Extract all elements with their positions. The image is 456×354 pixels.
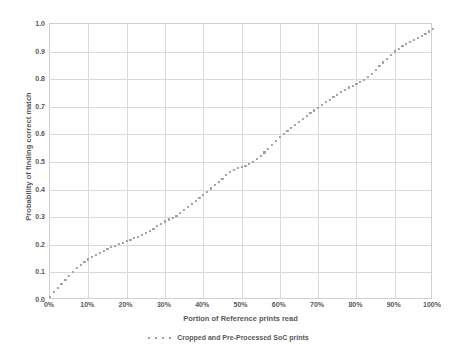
- data-point: [49, 296, 51, 298]
- x-axis-title: Portion of Reference prints read: [49, 314, 432, 323]
- y-tick-label: 0.1: [19, 268, 45, 275]
- gridline-vertical: [318, 24, 319, 298]
- data-point: [260, 155, 262, 157]
- plot-area: [49, 23, 432, 299]
- data-point: [432, 28, 434, 30]
- gridline-horizontal: [50, 52, 431, 53]
- x-tick-label: 20%: [106, 301, 146, 308]
- gridline-horizontal: [50, 162, 431, 163]
- y-tick-label: 0.5: [19, 158, 45, 165]
- data-point: [229, 171, 231, 173]
- data-point: [187, 206, 189, 208]
- x-tick-label: 30%: [144, 301, 184, 308]
- data-point: [382, 61, 384, 63]
- gridline-horizontal: [50, 190, 431, 191]
- data-point: [103, 250, 105, 252]
- data-point: [76, 267, 78, 269]
- gridline-vertical: [356, 24, 357, 298]
- data-point: [420, 35, 422, 37]
- data-point: [256, 158, 258, 160]
- y-tick-label: 0.7: [19, 102, 45, 109]
- gridline-vertical: [242, 24, 243, 298]
- x-tick-label: 100%: [412, 301, 452, 308]
- data-point: [122, 241, 124, 243]
- data-point: [290, 127, 292, 129]
- y-tick-label: 0.2: [19, 240, 45, 247]
- x-tick-label: 0%: [29, 301, 69, 308]
- data-point: [374, 69, 376, 71]
- data-point: [298, 121, 300, 123]
- data-point: [413, 39, 415, 41]
- x-tick-label: 10%: [67, 301, 107, 308]
- data-point: [80, 264, 82, 266]
- data-point: [91, 256, 93, 258]
- data-point: [248, 163, 250, 165]
- data-point: [275, 140, 277, 142]
- data-point: [129, 239, 131, 241]
- data-point: [340, 91, 342, 93]
- data-point: [198, 197, 200, 199]
- data-point: [271, 144, 273, 146]
- data-point: [225, 174, 227, 176]
- x-tick-label: 40%: [182, 301, 222, 308]
- data-point: [348, 86, 350, 88]
- data-point: [148, 230, 150, 232]
- data-point: [110, 246, 112, 248]
- data-point: [306, 115, 308, 117]
- data-point: [401, 45, 403, 47]
- data-point: [424, 33, 426, 35]
- legend-label: Cropped and Pre-Processed SoC prints: [177, 334, 308, 341]
- gridline-horizontal: [50, 272, 431, 273]
- data-point: [221, 177, 223, 179]
- gridline-vertical: [395, 24, 396, 298]
- data-point: [106, 248, 108, 250]
- data-point: [405, 43, 407, 45]
- gridline-vertical: [165, 24, 166, 298]
- data-point: [397, 47, 399, 49]
- x-tick-label: 70%: [297, 301, 337, 308]
- data-point: [371, 73, 373, 75]
- data-point: [206, 191, 208, 193]
- data-point: [390, 54, 392, 56]
- y-tick-label: 0.4: [19, 185, 45, 192]
- gridline-horizontal: [50, 134, 431, 135]
- data-point: [351, 84, 353, 86]
- data-point: [53, 291, 55, 293]
- data-point: [309, 112, 311, 114]
- data-point: [64, 279, 66, 281]
- data-point: [332, 96, 334, 98]
- legend-marker-icon: [147, 335, 173, 341]
- gridline-vertical: [280, 24, 281, 298]
- data-point: [313, 109, 315, 111]
- data-point: [336, 94, 338, 96]
- chart-legend: Cropped and Pre-Processed SoC prints: [0, 334, 456, 341]
- data-point: [263, 151, 265, 153]
- data-point: [95, 254, 97, 256]
- y-tick-label: 0.9: [19, 47, 45, 54]
- x-tick-label: 80%: [335, 301, 375, 308]
- y-tick-label: 0.3: [19, 213, 45, 220]
- data-point: [328, 99, 330, 101]
- data-point: [409, 41, 411, 43]
- y-tick-label: 1.0: [19, 20, 45, 27]
- data-point: [367, 76, 369, 78]
- data-point: [179, 212, 181, 214]
- data-point: [217, 181, 219, 183]
- gridline-horizontal: [50, 107, 431, 108]
- data-point: [286, 130, 288, 132]
- data-point: [267, 148, 269, 150]
- data-point: [359, 81, 361, 83]
- data-point: [321, 104, 323, 106]
- y-tick-label: 0.6: [19, 130, 45, 137]
- gridline-vertical: [88, 24, 89, 298]
- data-point: [152, 227, 154, 229]
- data-point: [137, 235, 139, 237]
- data-point: [99, 252, 101, 254]
- data-point: [302, 118, 304, 120]
- data-point: [145, 232, 147, 234]
- data-point: [141, 233, 143, 235]
- gridline-vertical: [127, 24, 128, 298]
- data-point: [386, 57, 388, 59]
- y-tick-label: 0.8: [19, 75, 45, 82]
- data-point: [60, 283, 62, 285]
